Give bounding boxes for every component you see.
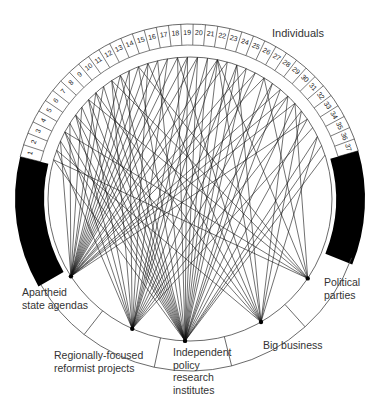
individual-segment-label: 11 — [93, 55, 103, 65]
regional-label-line2: reformist projects — [54, 362, 143, 375]
individual-segment-label: 7 — [59, 87, 67, 95]
individual-segment-label: 16 — [147, 32, 156, 41]
individual-segment-label: 28 — [282, 58, 292, 68]
individual-segment-label: 8 — [67, 78, 75, 86]
individual-segment-label: 24 — [240, 37, 250, 46]
individuals-label: Individuals — [272, 27, 324, 40]
apartheid-label: Apartheid state agendas — [22, 286, 88, 311]
category-bracket-tick — [154, 338, 160, 367]
individual-segment-label: 13 — [114, 43, 124, 53]
individual-segment-label: 29 — [291, 65, 302, 75]
apartheid-label-line1: Apartheid — [22, 286, 88, 299]
individual-segment-label: 9 — [76, 70, 84, 78]
individual-segment-label: 1 — [26, 150, 34, 156]
individual-segment-label: 21 — [206, 30, 215, 38]
connection-line — [132, 128, 312, 329]
individual-segment-label: 6 — [52, 97, 60, 104]
policy-label-line4: institutes — [173, 384, 231, 397]
connection-line — [54, 160, 186, 341]
left-black-block — [15, 157, 64, 287]
individual-segment-label: 32 — [316, 90, 326, 101]
individual-segment-label: 14 — [125, 39, 135, 48]
individual-segment-label: 35 — [335, 121, 345, 131]
business-label: Big business — [263, 339, 323, 352]
individual-segment-label: 2 — [30, 139, 38, 145]
parties-label: Political parties — [324, 276, 360, 301]
individual-segment-label: 26 — [262, 46, 272, 56]
apartheid-label-line2: state agendas — [22, 299, 88, 312]
node-regional — [130, 327, 134, 331]
individual-segment-label: 37 — [344, 143, 353, 153]
individual-segment-label: 3 — [34, 128, 42, 135]
regional-label: Regionally-focused reformist projects — [54, 349, 143, 374]
individual-segment-label: 30 — [300, 73, 311, 84]
individual-segment-label: 22 — [218, 31, 227, 39]
node-policy — [183, 339, 187, 343]
regional-label-line1: Regionally-focused — [54, 349, 143, 362]
connection-line — [71, 67, 139, 277]
individual-segment-label: 23 — [229, 34, 238, 43]
connection-line — [185, 58, 208, 341]
individual-segment-label: 10 — [83, 62, 94, 72]
policy-label-line1: Independent — [173, 346, 231, 359]
individual-segment-label: 18 — [171, 29, 179, 37]
connection-line — [76, 115, 261, 322]
node-business — [259, 320, 263, 324]
individual-segment-label: 31 — [308, 81, 318, 92]
policy-label-line2: policy — [173, 359, 231, 372]
connection-line — [217, 60, 307, 279]
individual-segment-label: 15 — [136, 35, 146, 44]
individual-segment-label: 4 — [39, 117, 47, 124]
individual-segment-label: 12 — [103, 49, 113, 59]
individual-segment-label: 25 — [251, 41, 261, 51]
right-black-block — [325, 151, 365, 265]
policy-label: Independent policy research institutes — [173, 346, 231, 396]
segment-divider — [181, 24, 182, 45]
connection-line — [71, 60, 218, 277]
connection-line — [132, 59, 167, 329]
individual-segment-label: 17 — [159, 30, 168, 38]
connection-line — [261, 111, 301, 322]
parties-label-line2: parties — [324, 289, 360, 302]
individual-segment-label: 20 — [195, 29, 203, 36]
segment-divider — [204, 25, 206, 46]
individual-segment-label: 36 — [340, 131, 349, 141]
category-bracket-tick — [84, 311, 102, 335]
connection-line — [71, 71, 129, 277]
connection-line — [71, 61, 158, 277]
individual-segment-label: 34 — [329, 110, 339, 120]
node-apartheid — [69, 274, 73, 278]
connection-line — [185, 103, 295, 341]
individual-segment-label: 19 — [183, 29, 191, 36]
black-blocks — [15, 151, 365, 287]
parties-label-line1: Political — [324, 276, 360, 289]
category-bracket-tick — [285, 305, 305, 327]
individual-segment-label: 5 — [45, 106, 53, 113]
individual-segment-label: 27 — [272, 52, 282, 62]
policy-label-line3: research — [173, 371, 231, 384]
individual-segment-label: 33 — [323, 100, 333, 110]
segment-divider — [168, 25, 171, 46]
connection-line — [138, 67, 185, 341]
connection-lines — [54, 57, 326, 341]
connection-line — [129, 71, 132, 329]
node-parties — [306, 276, 310, 280]
